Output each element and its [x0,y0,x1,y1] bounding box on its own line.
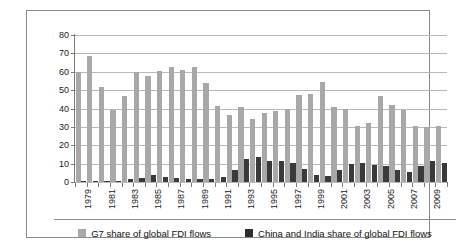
bar-china-india-1985 [151,175,156,182]
chart-legend: G7 share of global FDI flowsChina and In… [54,219,456,246]
legend-item-g7[interactable]: G7 share of global FDI flows [78,228,211,239]
bar-group [191,35,203,182]
x-tick-mark [226,183,227,187]
bar-china-india-2010 [442,163,447,182]
x-tick-mark [447,183,448,187]
bar-china-india-2005 [383,166,388,182]
legend-swatch-icon [78,229,86,237]
bar-g7-1991 [215,106,220,182]
bar-group [342,35,354,182]
x-tick-mark [249,183,250,187]
x-tick-mark [412,183,413,187]
bar-china-india-1999 [314,175,319,182]
x-axis-tick-label: 1987 [177,189,186,209]
x-tick-mark [145,183,146,187]
x-tick-mark [296,183,297,187]
bar-china-india-1995 [267,161,272,182]
x-axis-tick-label: 1991 [224,189,233,209]
x-tick-mark [110,183,111,187]
bar-g7-1979 [76,72,81,182]
bar-group [215,35,227,182]
bar-china-india-1993 [244,159,249,182]
x-axis-tick-label: 2005 [387,189,396,209]
bar-g7-1995 [262,113,267,182]
bar-china-india-1996 [279,161,284,182]
bar-g7-2001 [331,107,336,182]
bar-china-india-2004 [372,165,377,182]
bar-china-india-2003 [360,163,365,182]
x-axis-tick-label: 2001 [340,189,349,209]
x-axis: 1979198119831985198719891991199319951997… [75,183,447,223]
bar-g7-2009 [424,127,429,182]
bar-group [273,35,285,182]
legend-item-china-india[interactable]: China and India share of global FDI flow… [245,228,432,239]
bar-g7-2006 [389,105,394,182]
y-axis-tick-label: 40 [59,104,69,113]
bar-group [377,35,389,182]
bar-group [238,35,250,182]
bar-g7-2004 [366,123,371,182]
x-tick-mark [238,183,239,187]
y-axis-tick-label: 50 [59,86,69,95]
bar-china-india-2006 [395,170,400,182]
bar-china-india-1979 [81,181,86,182]
bar-group [168,35,180,182]
y-axis-tick-label: 0 [64,178,69,187]
bar-g7-1997 [285,109,290,182]
x-axis-tick-label: 1993 [247,189,256,209]
bar-g7-2008 [413,126,418,182]
x-tick-mark [133,183,134,187]
bar-g7-2000 [320,82,325,182]
bar-china-india-1992 [232,170,237,182]
x-axis-tick-label: 1983 [131,189,140,209]
bar-china-india-1983 [128,179,133,182]
bar-group [319,35,331,182]
bar-group [110,35,122,182]
bar-china-india-1988 [186,179,191,182]
x-tick-mark [284,183,285,187]
bar-g7-2005 [378,96,383,182]
bar-g7-2003 [355,126,360,182]
bar-china-india-1998 [302,169,307,182]
bar-group [412,35,424,182]
x-tick-mark [342,183,343,187]
bar-group [331,35,343,182]
bar-china-india-1986 [163,177,168,182]
x-tick-mark [122,183,123,187]
x-axis-tick-label: 2003 [363,189,372,209]
x-axis-tick-label: 2009 [433,189,442,209]
bar-group [75,35,87,182]
bar-china-india-1980 [93,181,98,182]
bar-g7-1980 [87,56,92,182]
x-tick-mark [261,183,262,187]
bar-group [98,35,110,182]
bar-china-india-2007 [407,172,412,182]
bar-china-india-1981 [104,181,109,182]
bar-group [180,35,192,182]
y-axis-tick-label: 10 [59,159,69,168]
bar-china-india-1991 [221,177,226,182]
x-axis-tick-label: 1985 [154,189,163,209]
bar-group [284,35,296,182]
x-tick-mark [331,183,332,187]
bar-group [308,35,320,182]
x-axis-tick-label: 1979 [84,189,93,209]
bar-g7-1999 [308,94,313,182]
x-axis-tick-label: 2007 [410,189,419,209]
bar-china-india-1982 [116,181,121,182]
y-axis-tick-label: 60 [59,67,69,76]
bar-g7-1996 [273,111,278,182]
bar-china-india-1984 [139,178,144,182]
x-tick-mark [435,183,436,187]
x-axis-tick-label: 1989 [201,189,210,209]
x-tick-mark [273,183,274,187]
bar-group [389,35,401,182]
x-tick-mark [401,183,402,187]
y-axis-tick-label: 30 [59,122,69,131]
bar-g7-1989 [192,67,197,182]
legend-label: China and India share of global FDI flow… [258,228,432,239]
x-tick-mark [203,183,204,187]
bar-group [249,35,261,182]
x-axis-tick-label: 1997 [294,189,303,209]
y-axis-tick-label: 80 [59,31,69,40]
